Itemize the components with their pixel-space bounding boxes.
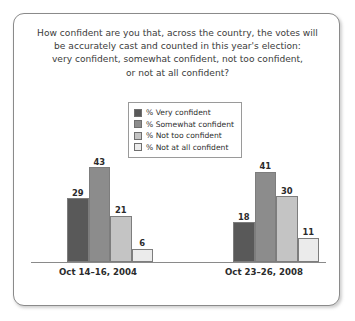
bar-value-label: 18 xyxy=(238,212,250,222)
bar-value-label: 29 xyxy=(72,188,84,198)
bar: 18 xyxy=(233,222,255,262)
bar-value-label: 43 xyxy=(93,157,105,167)
bar: 30 xyxy=(276,196,298,262)
plot-area: 2943216 18413011 Oct 14–16, 2004 Oct 23–… xyxy=(14,14,341,307)
x-axis-line xyxy=(31,262,326,263)
bar-value-label: 41 xyxy=(259,161,271,171)
category-label: Oct 14–16, 2004 xyxy=(38,267,158,277)
bar: 11 xyxy=(298,238,320,262)
bar-value-label: 30 xyxy=(281,186,293,196)
bar: 41 xyxy=(255,172,277,262)
bar: 43 xyxy=(89,167,111,262)
bar-group: 18413011 xyxy=(233,152,319,262)
chart-card: How confident are you that, across the c… xyxy=(13,13,340,306)
bar-value-label: 6 xyxy=(139,238,145,248)
category-label: Oct 23–26, 2008 xyxy=(204,267,324,277)
bar: 6 xyxy=(132,249,154,262)
bar-value-label: 11 xyxy=(302,227,314,237)
bar: 21 xyxy=(110,216,132,262)
bar: 29 xyxy=(67,198,89,262)
bar-group: 2943216 xyxy=(67,152,153,262)
bar-value-label: 21 xyxy=(115,205,127,215)
